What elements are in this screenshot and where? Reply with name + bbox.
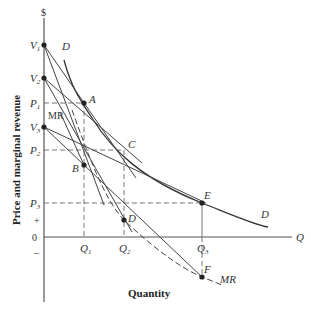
label-e: E [203,189,211,201]
label-a: A [88,93,96,105]
label-p3: P3 [29,197,41,211]
mr-curve [72,110,222,285]
point-v1 [41,42,46,47]
label-p1: P1 [29,97,40,111]
y-axis-unit: $ [41,7,46,18]
point-v3 [41,124,46,129]
label-q2: Q2 [119,242,131,256]
label-v2: V2 [30,72,41,86]
label-q3: Q3 [197,242,209,256]
label-d: D [127,212,136,224]
minus-label: – [33,247,40,258]
label-q1: Q1 [80,242,91,256]
x-axis-title: Quantity [128,287,171,299]
label-mr-left: MR [48,110,64,121]
point-a [81,100,86,105]
plus-label: + [34,215,40,226]
label-v3: V3 [30,121,41,135]
point-b [81,162,86,167]
point-f [199,274,204,279]
linear-demand-lines [44,45,206,203]
label-b: B [72,162,79,174]
x-axis-symbol: Q [296,231,304,243]
label-demand-right: D [260,208,269,220]
label-v1: V1 [30,39,40,53]
demand-mr-diagram: $ Q 0 + – V1 V2 V3 P1 P2 P3 Q1 Q2 Q3 A B… [0,0,311,312]
y-axis-title: Price and marginal revenue [10,95,22,225]
label-c: C [128,138,136,150]
label-f: F [203,263,211,275]
point-e [199,200,204,205]
label-p2: P2 [29,144,41,158]
point-v2 [41,75,46,80]
origin-label: 0 [32,232,37,243]
label-demand-top: D [61,40,70,52]
demand-curve [64,60,268,227]
point-d [121,217,126,222]
label-mr-right: MR [219,273,236,285]
